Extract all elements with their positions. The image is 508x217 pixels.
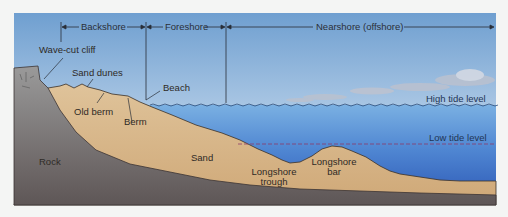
label-sand: Sand (191, 153, 213, 163)
label-high-tide: High tide level (426, 94, 486, 104)
label-old-berm: Old berm (74, 107, 113, 117)
zone-foreshore: Foreshore (165, 22, 208, 32)
label-longshore-bar-line2: bar (327, 166, 341, 177)
label-wave-cut-cliff: Wave-cut cliff (39, 45, 96, 55)
label-berm: Berm (124, 117, 147, 127)
label-longshore-trough-line2: trough (261, 176, 288, 187)
zone-backshore: Backshore (81, 22, 126, 32)
label-longshore-bar: Longshore bar (306, 157, 362, 176)
label-low-tide: Low tide level (429, 133, 487, 143)
zone-nearshore: Nearshore (offshore) (316, 22, 403, 32)
label-longshore-trough: Longshore trough (246, 167, 302, 186)
label-rock: Rock (39, 157, 61, 167)
label-beach: Beach (163, 83, 190, 93)
label-sand-dunes: Sand dunes (72, 68, 123, 78)
